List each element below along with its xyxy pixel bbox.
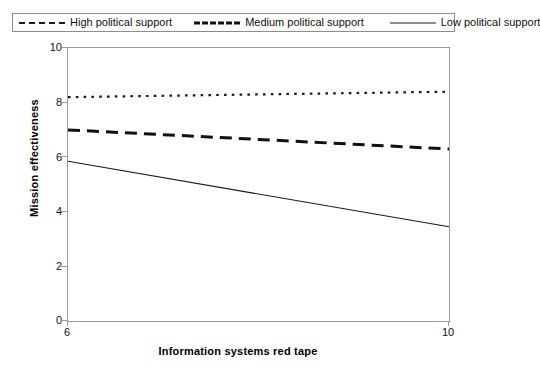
x-tick-label-6: 6: [52, 327, 82, 338]
y-tick-label-8: 8: [42, 97, 62, 108]
series-canvas: [68, 48, 449, 321]
solid-line-icon: [390, 17, 436, 28]
plot-area: [67, 47, 450, 322]
y-tick-label-6: 6: [42, 152, 62, 163]
y-axis-title: Mission effectiveness: [28, 58, 40, 258]
legend-entry-low: Low political support: [390, 14, 540, 31]
dotted-line-icon: [19, 17, 65, 28]
chart-legend: High political support Medium political …: [12, 13, 455, 32]
y-tick-label-0: 0: [42, 315, 62, 326]
series-line-high-political-support: [68, 92, 449, 97]
dashed-line-icon: [194, 17, 240, 28]
legend-label-low: Low political support: [441, 17, 540, 28]
y-tick-label-2: 2: [42, 261, 62, 272]
legend-label-high: High political support: [70, 17, 172, 28]
series-line-low-political-support: [68, 161, 449, 227]
legend-entry-medium: Medium political support: [194, 14, 364, 31]
x-tick-label-10: 10: [433, 327, 463, 338]
legend-label-medium: Medium political support: [245, 17, 364, 28]
x-axis-title: Information systems red tape: [0, 345, 476, 357]
series-line-medium-political-support: [68, 130, 449, 149]
legend-entry-high: High political support: [19, 14, 172, 31]
y-tick-label-10: 10: [42, 42, 62, 53]
y-tick-label-4: 4: [42, 206, 62, 217]
